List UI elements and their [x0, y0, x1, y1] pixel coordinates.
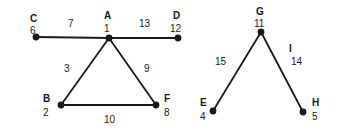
graph-node-dot-h [300, 109, 307, 116]
node-number-d: 12 [170, 24, 181, 34]
node-number-h: 5 [312, 112, 318, 122]
node-number-e: 4 [200, 112, 206, 122]
node-number-a: 1 [104, 24, 110, 34]
graph-node-dot-a [106, 35, 113, 42]
edge-weight-a-f: 9 [144, 64, 150, 74]
graph-edge-c-a [36, 37, 109, 38]
edge-weight-c-a: 7 [68, 19, 74, 29]
node-number-f: 8 [164, 108, 170, 118]
edge-weight-e-g: 15 [215, 57, 226, 67]
node-number-b: 2 [43, 108, 49, 118]
edge-weight-a-d: 13 [139, 19, 150, 29]
node-number-c: 6 [30, 26, 36, 36]
edge-weight-a-b: 3 [64, 64, 70, 74]
graph-edge-e-g [213, 32, 261, 111]
graph-node-dot-b [58, 102, 65, 109]
graph-diagram-canvas: C6A1D12B2F8G11E4H571339101514I [0, 0, 339, 133]
node-label-g: G [256, 7, 264, 17]
node-label-b: B [43, 94, 50, 104]
node-label-e: E [200, 98, 207, 108]
node-label-f: F [164, 94, 170, 104]
node-label-a: A [104, 11, 111, 21]
node-label-c: C [30, 14, 37, 24]
edge-label-g-h: I [289, 44, 292, 54]
edge-weight-b-f: 10 [104, 115, 115, 125]
node-label-d: D [173, 11, 180, 21]
node-number-g: 11 [254, 19, 264, 29]
graph-node-dot-f [153, 102, 160, 109]
edge-weight-g-h: 14 [291, 57, 302, 67]
graph-node-dot-d [175, 35, 182, 42]
graph-edge-g-h [261, 32, 303, 112]
graph-node-dot-g [258, 29, 265, 36]
node-label-h: H [312, 98, 319, 108]
graph-node-dot-e [210, 108, 217, 115]
